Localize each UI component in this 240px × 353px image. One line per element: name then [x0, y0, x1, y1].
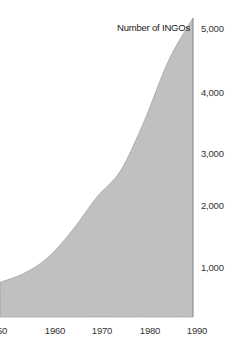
chart-title: Number of INGOs — [117, 22, 190, 33]
y-tick-3000: 3,000 — [201, 148, 224, 159]
y-tick-2000: 2,000 — [201, 200, 224, 211]
x-tick-1950: 50 — [0, 325, 7, 336]
x-tick-1960: 1960 — [45, 325, 65, 336]
x-tick-1980: 1980 — [140, 325, 160, 336]
area-chart — [0, 0, 240, 353]
y-tick-5000: 5,000 — [201, 23, 224, 34]
y-tick-1000: 1,000 — [201, 262, 224, 273]
ingo-area — [0, 18, 193, 317]
x-tick-1970: 1970 — [92, 325, 112, 336]
y-tick-4000: 4,000 — [201, 87, 224, 98]
x-tick-1990: 1990 — [187, 325, 207, 336]
